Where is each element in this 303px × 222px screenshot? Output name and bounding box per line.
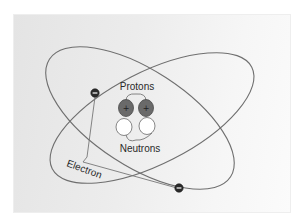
electron-label: Electron — [65, 158, 103, 181]
proton-2-charge: + — [143, 104, 150, 113]
neutron-2 — [139, 118, 155, 135]
proton-1: + — [119, 100, 134, 117]
electron-top — [91, 89, 99, 97]
proton-2: + — [139, 100, 154, 117]
neutron-1 — [116, 119, 132, 136]
orbit-ellipse-a — [23, 19, 256, 217]
atom-diagram: + + Protons Neutrons Electron — [0, 0, 303, 222]
proton-1-charge: + — [123, 104, 130, 113]
electron-bottom — [175, 184, 183, 192]
protons-label: Protons — [120, 81, 154, 92]
neutrons-label: Neutrons — [120, 143, 161, 154]
